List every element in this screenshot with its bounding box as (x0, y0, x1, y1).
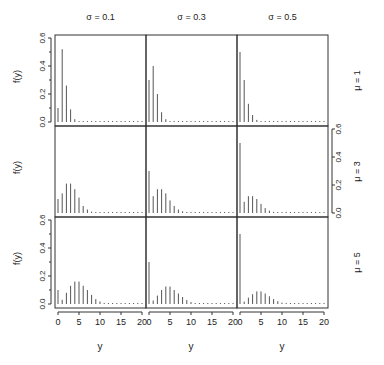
y-axis-label: f(y) (12, 252, 22, 265)
x-axis-label-col1: y (98, 341, 103, 352)
panel-mu5-sigma0_5 (237, 217, 328, 308)
y-tick-label: 0.4 (38, 242, 47, 254)
panels (55, 35, 328, 308)
x-tick-label: 0 (55, 317, 60, 327)
panel-border (55, 35, 146, 126)
lattice-plot: σ = 0.1σ = 0.3σ = 0.5 μ = 1μ = 3μ = 5 0.… (0, 0, 384, 365)
axes: 0.00.20.40.6f(y)0.00.20.40.6f(y)f(y)0.00… (12, 32, 343, 327)
panel-mu3-sigma0_1 (55, 126, 146, 217)
x-tick-label: 10 (277, 317, 287, 327)
y-tick-label: 0.2 (38, 88, 47, 100)
panel-mu5-sigma0_1 (55, 217, 146, 308)
panel-border (237, 126, 328, 217)
x-tick-label: 15 (116, 317, 126, 327)
y-axis-label: f(y) (12, 161, 22, 174)
x-tick-label: 5 (76, 317, 81, 327)
panel-border (55, 217, 146, 308)
x-tick-label: 10 (95, 317, 105, 327)
y-tick-label: 0.0 (38, 116, 47, 128)
column-header: σ = 0.5 (268, 12, 296, 22)
panel-border (55, 126, 146, 217)
y-tick-label: 0.4 (334, 151, 343, 163)
panel-border (237, 35, 328, 126)
x-tick-label: 0 (146, 317, 151, 327)
x-axis-label-col3: y (280, 341, 285, 352)
x-tick-label: 5 (167, 317, 172, 327)
x-tick-label: 15 (207, 317, 217, 327)
y-tick-label: 0.6 (334, 123, 343, 135)
y-tick-label: 0.2 (38, 270, 47, 282)
x-tick-label: 0 (237, 317, 242, 327)
panel-border (146, 35, 237, 126)
y-tick-label: 0.2 (334, 179, 343, 191)
y-tick-label: 0.4 (38, 60, 47, 72)
x-tick-label: 5 (258, 317, 263, 327)
y-tick-label: 0.0 (334, 207, 343, 219)
row-headers: μ = 1μ = 3μ = 5 (352, 70, 362, 272)
y-axis-label: f(y) (12, 70, 22, 83)
row-header: μ = 1 (352, 70, 362, 90)
x-tick-label: 10 (186, 317, 196, 327)
y-tick-label: 0.6 (38, 32, 47, 44)
panel-mu3-sigma0_5 (237, 126, 328, 217)
panel-border (237, 217, 328, 308)
panel-mu3-sigma0_3 (146, 126, 237, 217)
panel-border (146, 217, 237, 308)
column-headers: σ = 0.1σ = 0.3σ = 0.5 (86, 12, 296, 22)
x-tick-label: 20 (319, 317, 329, 327)
y-tick-label: 0.6 (38, 214, 47, 226)
panel-mu5-sigma0_3 (146, 217, 237, 308)
column-header: σ = 0.3 (177, 12, 205, 22)
row-header: μ = 5 (352, 252, 362, 272)
column-header: σ = 0.1 (86, 12, 114, 22)
x-tick-label: 15 (298, 317, 308, 327)
panel-border (146, 126, 237, 217)
row-header: μ = 3 (352, 161, 362, 181)
panel-mu1-sigma0_1 (55, 35, 146, 126)
panel-mu1-sigma0_5 (237, 35, 328, 126)
x-axis-label-col2: y (189, 341, 194, 352)
y-tick-label: 0.0 (38, 298, 47, 310)
panel-mu1-sigma0_3 (146, 35, 237, 126)
